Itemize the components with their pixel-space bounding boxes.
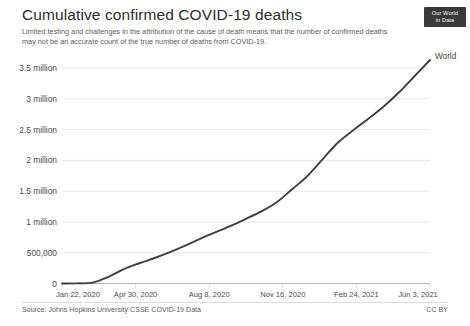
y-axis-tick-label: 500,000	[27, 248, 58, 258]
x-axis-tick-label: Feb 24, 2021	[334, 290, 379, 299]
logo-line-2: in Data	[424, 17, 466, 24]
source-text: Source: Johns Hopkins University CSSE CO…	[22, 306, 201, 314]
y-axis-labels-group: 0500,0001 million1.5 million2 million2.5…	[19, 63, 57, 289]
series-label-world: World	[435, 52, 457, 61]
chart-container: Cumulative confirmed COVID-19 deaths Lim…	[0, 0, 470, 326]
our-world-in-data-logo[interactable]: Our World in Data	[424, 7, 466, 27]
x-axis-labels-group: Jan 22, 2020Apr 30, 2020Aug 8, 2020Nov 1…	[56, 290, 438, 299]
license-text[interactable]: CC BY	[426, 306, 448, 314]
y-axis-tick-label: 1.5 million	[19, 186, 57, 196]
plot-area: 0500,0001 million1.5 million2 million2.5…	[0, 0, 470, 326]
x-axis-tick-label: Aug 8, 2020	[189, 290, 230, 299]
y-axis-tick-label: 3.5 million	[19, 63, 57, 73]
y-axis-tick-label: 1 million	[26, 217, 57, 227]
chart-title: Cumulative confirmed COVID-19 deaths	[22, 6, 412, 24]
footer-divider	[22, 302, 448, 303]
tickmarks-group	[62, 285, 430, 289]
line-chart-svg: 0500,0001 million1.5 million2 million2.5…	[0, 0, 470, 326]
y-axis-tick-label: 0	[52, 279, 57, 289]
chart-subtitle: Limited testing and challenges in the at…	[22, 27, 394, 46]
chart-footer: Source: Johns Hopkins University CSSE CO…	[22, 306, 448, 320]
chart-header: Cumulative confirmed COVID-19 deaths Lim…	[22, 6, 412, 46]
x-axis-tick-label: Apr 30, 2020	[114, 290, 158, 299]
y-axis-tick-label: 3 million	[26, 94, 57, 104]
y-axis-tick-label: 2.5 million	[19, 125, 57, 135]
x-axis-tick-label: Jun 3, 2021	[398, 290, 438, 299]
x-axis-tick-label: Nov 16, 2020	[260, 290, 305, 299]
logo-line-1: Our World	[424, 10, 466, 17]
x-axis-tick-label: Jan 22, 2020	[56, 290, 100, 299]
series-line-world	[62, 60, 430, 284]
gridlines-group	[62, 68, 430, 253]
y-axis-tick-label: 2 million	[26, 155, 57, 165]
